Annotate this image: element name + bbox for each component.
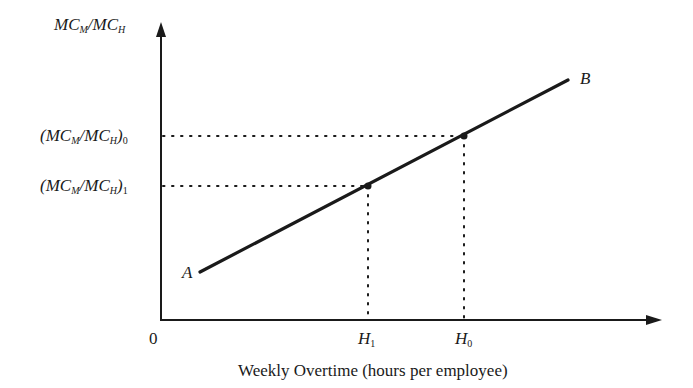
y-tick-label-0: (MCM/MCH)0 — [40, 127, 128, 146]
point-a-label: A — [182, 264, 192, 281]
y-tick-label-1: (MCM/MCH)1 — [40, 177, 128, 196]
x-tick-label-h1: H1 — [358, 330, 375, 349]
x-tick-label-h0: H0 — [455, 330, 472, 349]
h0-letter: H — [455, 329, 467, 348]
h1-letter: H — [358, 329, 370, 348]
origin-label: 0 — [149, 330, 158, 347]
y-axis-arrow-icon — [156, 22, 166, 37]
x-axis-arrow-icon — [646, 315, 662, 325]
y-tick1-slash: /MC — [80, 176, 110, 195]
y-tick0-m: M — [71, 135, 79, 146]
point-h0-marker — [461, 133, 468, 140]
y-tick1-h: H — [110, 185, 117, 196]
y-axis-title: MCM/MCH — [54, 16, 125, 35]
y-tick1-open: (MC — [40, 176, 71, 195]
y-title-sub-h: H — [118, 24, 125, 35]
y-tick0-h: H — [110, 135, 117, 146]
y-tick0-open: (MC — [40, 126, 71, 145]
h1-sub: 1 — [370, 338, 375, 349]
y-tick1-sub: 1 — [123, 185, 128, 196]
y-title-mc: MC — [54, 15, 80, 34]
y-title-sub-m: M — [80, 24, 88, 35]
y-tick0-sub: 0 — [123, 135, 128, 146]
point-h1-marker — [365, 183, 372, 190]
x-axis-title: Weekly Overtime (hours per employee) — [238, 362, 508, 379]
y-title-slash-mc: /MC — [88, 15, 118, 34]
line-ab — [200, 80, 568, 272]
y-tick0-slash: /MC — [80, 126, 110, 145]
y-tick1-m: M — [71, 185, 79, 196]
point-b-label: B — [580, 70, 590, 87]
h0-sub: 0 — [467, 338, 472, 349]
